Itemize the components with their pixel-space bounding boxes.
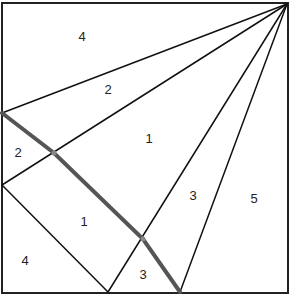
region-label-center: 1 xyxy=(145,131,152,146)
edge-left-to-bottom xyxy=(2,185,108,292)
region-label-left-small: 2 xyxy=(14,145,21,160)
region-label-bottom-small: 3 xyxy=(139,267,146,282)
highlighted-fold-path xyxy=(2,113,180,292)
region-label-lower-center: 1 xyxy=(80,214,87,229)
edge-apex-to-bottom-mid xyxy=(108,4,287,292)
region-label-top: 4 xyxy=(78,29,85,44)
region-label-upper-band: 2 xyxy=(104,82,111,97)
edge-apex-to-bottom-right xyxy=(180,4,287,292)
intersection-node-2 xyxy=(141,237,146,242)
region-label-bottom-left: 4 xyxy=(21,253,28,268)
dissection-diagram: 4 2 1 2 3 5 1 4 3 xyxy=(0,0,290,299)
edge-apex-to-left-lower xyxy=(2,4,287,185)
region-label-right: 5 xyxy=(250,191,257,206)
edge-apex-to-left-upper xyxy=(2,4,287,113)
region-label-narrow: 3 xyxy=(189,188,196,203)
intersection-node-1 xyxy=(52,151,57,156)
